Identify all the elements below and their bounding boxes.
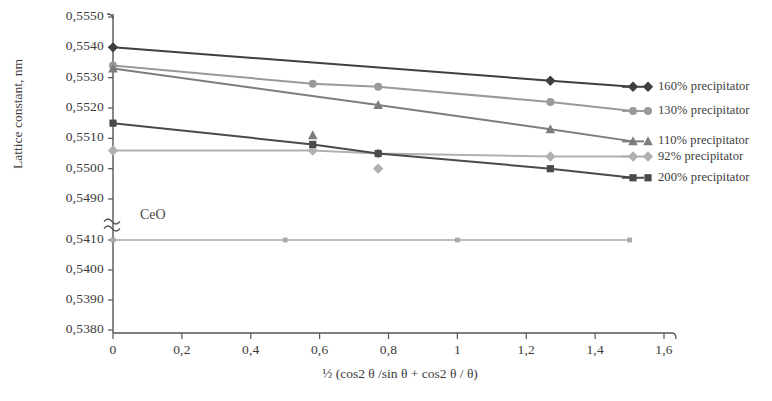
legend-marker-1 [622,107,652,115]
y-tick-label: 0,5510 [18,129,104,145]
axis-lines [107,14,676,339]
legend-marker-3 [622,151,653,161]
chart-figure: Lattice constant, nm ½ (cos2 θ /sin θ + … [0,0,772,401]
data-point-extra-1 [373,163,383,173]
legend-item-2: 110% precipitator [658,133,749,148]
ceo-annotation: CeO [140,207,166,223]
x-tick-label: 1,6 [639,342,689,358]
y-tick-label: 0,5400 [18,261,104,277]
y-tick-label: 0,5380 [18,321,104,337]
x-axis-title: ½ (cos2 θ /sin θ + cos2 θ / θ) [200,366,600,382]
y-tick-label: 0,5500 [18,160,104,176]
plot-area [0,0,772,401]
y-tick-label: 0,5410 [18,231,104,247]
x-tick-label: 0 [88,342,138,358]
y-tick-label: 0,5530 [18,69,104,85]
x-tick-label: 1,4 [570,342,620,358]
data-series-group [108,42,638,242]
series-0 [108,42,638,92]
series-1 [109,62,637,116]
legend-markers [622,82,653,182]
x-tick-label: 1,2 [501,342,551,358]
y-tick-label: 0,5550 [18,8,104,24]
legend-marker-4 [622,174,652,181]
axis-break-symbol [104,219,120,231]
y-tick-label: 0,5390 [18,291,104,307]
x-tick-label: 0,2 [157,342,207,358]
data-point-extra-0 [308,130,318,139]
legend-marker-2 [622,136,653,145]
y-tick-label: 0,5540 [18,38,104,54]
legend-item-4: 200% precipitator [658,170,750,185]
axis-ticks [108,17,664,339]
legend-marker-0 [622,82,653,92]
legend-item-3: 92% precipitator [658,149,743,164]
x-tick-label: 1 [432,342,482,358]
legend-item-1: 130% precipitator [658,103,750,118]
y-tick-label: 0,5520 [18,99,104,115]
y-tick-label: 0,5490 [18,190,104,206]
series-2 [108,64,638,146]
legend-item-0: 160% precipitator [658,79,750,94]
series-5 [111,238,632,243]
x-tick-label: 0,6 [295,342,345,358]
x-tick-label: 0,8 [364,342,414,358]
x-tick-label: 0,4 [226,342,276,358]
